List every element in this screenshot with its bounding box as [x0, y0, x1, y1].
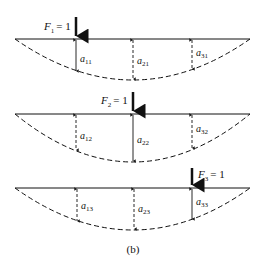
- deflection-a31-label: a31: [196, 47, 209, 60]
- figure-caption: (b): [127, 243, 140, 256]
- influence-coefficient-diagram: F1= 1 a11 a21 a31 F2= 1 a12 a22 a32 F3= …: [0, 0, 265, 265]
- deflection-a23-label: a23: [138, 203, 151, 216]
- deflection-a22-label: a22: [137, 134, 150, 147]
- deflection-a32-label: a32: [196, 123, 209, 136]
- deflection-a21-label: a21: [137, 55, 150, 68]
- beam-3-group: F3= 1 a13 a23 a33: [15, 168, 250, 230]
- deflection-a33-label: a33: [196, 196, 209, 209]
- force-3-label: F3= 1: [197, 168, 225, 183]
- force-2-label: F2= 1: [100, 94, 128, 109]
- beam-2-deflected-shape: [15, 114, 250, 162]
- deflection-a13-label: a13: [81, 200, 94, 213]
- beam-3-deflected-shape: [15, 188, 250, 230]
- deflection-a11-label: a11: [80, 53, 92, 66]
- beam-1-group: F1= 1 a11 a21 a31: [15, 17, 250, 80]
- deflection-a12-label: a12: [80, 130, 93, 143]
- force-1-label: F1= 1: [43, 20, 71, 35]
- beam-1-deflected-shape: [15, 39, 250, 80]
- beam-2-group: F2= 1 a12 a22 a32: [15, 92, 250, 162]
